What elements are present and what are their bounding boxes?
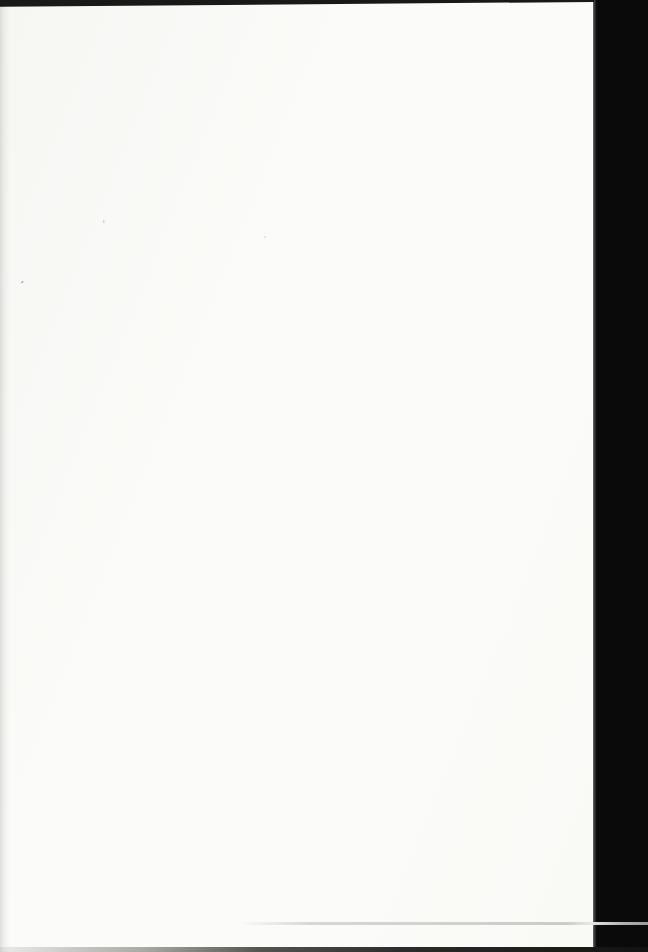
next-page-edge-line [238,922,648,925]
page-left-shadow [0,0,10,952]
book-page: ′ ˈ · [0,0,594,952]
stray-apostrophe-mark: ′ [19,279,24,293]
scan-background: ′ ˈ · [0,0,648,952]
faint-speck-mark: · [263,232,267,244]
faint-tick-mark: ˈ [102,220,105,232]
scan-bottom-edge [0,947,648,952]
scan-right-band [593,0,648,952]
